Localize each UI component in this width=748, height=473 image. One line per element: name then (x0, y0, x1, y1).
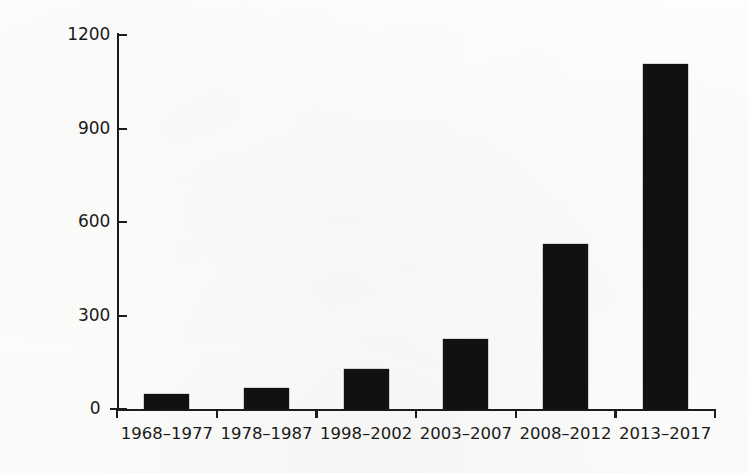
x-tick-4 (515, 409, 517, 418)
bar-2013-2017 (643, 64, 688, 409)
x-tick-6 (714, 409, 716, 418)
bar-1968-1977 (144, 394, 189, 409)
bar-1978-1987 (244, 388, 289, 409)
x-label-2013-2017: 2013–2017 (619, 424, 711, 443)
x-tick-3 (415, 409, 417, 418)
y-tick-label-0: 0 (90, 398, 101, 418)
y-tick-label-300: 300 (78, 304, 110, 324)
x-tick-5 (614, 409, 616, 418)
x-label-2003-2007: 2003–2007 (420, 424, 512, 443)
x-tick-2 (315, 409, 317, 418)
y-tick-label-1200: 1200 (67, 24, 110, 44)
x-label-2008-2012: 2008–2012 (519, 424, 611, 443)
x-tick-0 (116, 409, 118, 418)
bar-2008-2012 (543, 244, 588, 409)
x-label-1968-1977: 1968–1977 (121, 424, 213, 443)
plot-area: 1200 900 600 300 0 1968–1977 1978–1987 (117, 35, 715, 409)
y-tick-900: 900 (119, 128, 127, 130)
bar-1998-2002 (344, 369, 389, 409)
y-tick-label-900: 900 (78, 117, 110, 137)
y-tick-300: 300 (119, 315, 127, 317)
y-tick-1200: 1200 (119, 34, 127, 36)
y-tick-label-600: 600 (78, 211, 110, 231)
y-tick-600: 600 (119, 221, 127, 223)
x-tick-1 (216, 409, 218, 418)
bar-2003-2007 (443, 339, 488, 409)
x-label-1998-2002: 1998–2002 (320, 424, 412, 443)
x-label-1978-1987: 1978–1987 (220, 424, 312, 443)
bar-chart-figure: Number of articles published 1200 900 60… (0, 0, 748, 473)
